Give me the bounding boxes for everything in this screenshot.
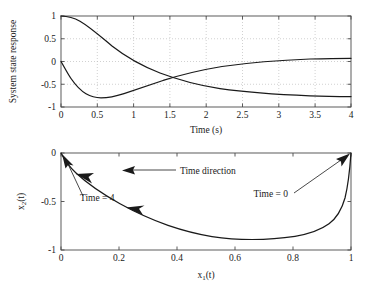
svg-text:0: 0 xyxy=(59,253,64,263)
bottom-x-tick-labels: 0 0.2 0.4 0.6 0.8 1 xyxy=(59,253,354,263)
annotation-time-four-label: Time = 4 xyxy=(80,193,115,203)
annotation-time-direction-label: Time direction xyxy=(180,166,236,176)
top-y-tick-labels: 1 0.5 0 -0.5 -1 xyxy=(41,11,56,112)
annotation-time-direction: Time direction xyxy=(122,166,236,176)
svg-text:0.5: 0.5 xyxy=(91,110,103,120)
time-response-plot: 0 0.5 1 1.5 2 2.5 3 3.5 4 1 0.5 0 -0.5 -… xyxy=(0,0,372,140)
annotation-time-zero-label: Time = 0 xyxy=(253,189,288,199)
svg-text:3: 3 xyxy=(276,110,281,120)
svg-text:0.2: 0.2 xyxy=(113,253,125,263)
svg-text:x2(t): x2(t) xyxy=(16,193,28,210)
top-y-axis-title: System state response xyxy=(8,20,18,103)
svg-text:0: 0 xyxy=(59,110,64,120)
svg-text:-0.5: -0.5 xyxy=(41,197,56,207)
svg-text:0: 0 xyxy=(51,148,56,158)
svg-text:0.5: 0.5 xyxy=(44,34,56,44)
bottom-y-axis-title: x2(t) xyxy=(16,193,28,210)
svg-text:1.5: 1.5 xyxy=(164,110,176,120)
svg-text:1: 1 xyxy=(349,253,354,263)
svg-text:-0.5: -0.5 xyxy=(41,80,56,90)
svg-text:2.5: 2.5 xyxy=(237,110,249,120)
top-x-axis-title: Time (s) xyxy=(190,125,222,136)
bottom-y-tick-labels: 0 -0.5 -1 xyxy=(41,148,56,255)
svg-text:1: 1 xyxy=(131,110,136,120)
svg-text:0: 0 xyxy=(51,57,56,67)
top-x-tick-labels: 0 0.5 1 1.5 2 2.5 3 3.5 4 xyxy=(59,110,354,120)
svg-text:-1: -1 xyxy=(48,245,56,255)
gridlines xyxy=(61,16,351,107)
svg-text:0.4: 0.4 xyxy=(171,253,183,263)
svg-text:1: 1 xyxy=(51,11,56,21)
phase-portrait-plot: Time direction Time = 0 Time = 4 0 0.2 0… xyxy=(0,140,372,286)
svg-text:0.8: 0.8 xyxy=(287,253,299,263)
svg-text:0.6: 0.6 xyxy=(229,253,241,263)
svg-text:4: 4 xyxy=(349,110,354,120)
bottom-x-axis-title: x1(t) xyxy=(197,270,214,282)
annotation-time-zero: Time = 0 xyxy=(253,154,350,199)
svg-text:-1: -1 xyxy=(48,102,56,112)
direction-arrowhead-1 xyxy=(76,173,94,184)
figure-container: 0 0.5 1 1.5 2 2.5 3 3.5 4 1 0.5 0 -0.5 -… xyxy=(0,0,372,286)
direction-arrowhead-2 xyxy=(126,206,145,216)
svg-text:2: 2 xyxy=(204,110,209,120)
svg-text:3.5: 3.5 xyxy=(309,110,321,120)
